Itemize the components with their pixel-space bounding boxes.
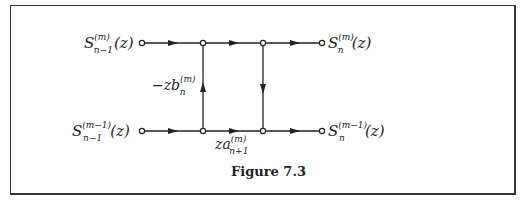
cross-branches — [203, 46, 263, 128]
label-output-top: S(m)n(z) — [328, 32, 371, 55]
signal-flow-diagram: S(m)n−1(z) S(m−1)n−1(z) S(m)n(z) S(m−1)n… — [0, 0, 524, 205]
node-junction-bottom-left — [200, 128, 205, 133]
arrow-icons — [168, 40, 300, 134]
label-branch-za: za(m)n+1 — [214, 134, 248, 156]
arrow-down-icon — [260, 84, 266, 94]
arrow-right-icon — [290, 40, 300, 46]
node-output-top — [319, 40, 324, 45]
arrow-right-icon — [168, 40, 178, 46]
label-output-bottom: S(m−1)n(z) — [328, 120, 385, 143]
arrow-right-icon — [168, 128, 178, 134]
node-junction-top-left — [200, 40, 205, 45]
node-input-top — [139, 40, 144, 45]
arrow-up-icon — [200, 82, 206, 92]
node-junction-bottom-right — [260, 128, 265, 133]
node-junction-top-right — [260, 40, 265, 45]
label-input-top: S(m)n−1(z) — [84, 32, 134, 55]
label-input-bottom: S(m−1)n−1(z) — [72, 120, 130, 143]
label-branch-minus-zb: −zb(m)n — [152, 74, 196, 97]
arrow-right-icon — [229, 40, 239, 46]
arrow-right-icon — [290, 128, 300, 134]
node-output-bottom — [319, 128, 324, 133]
figure-caption: Figure 7.3 — [231, 164, 306, 179]
node-input-bottom — [139, 128, 144, 133]
